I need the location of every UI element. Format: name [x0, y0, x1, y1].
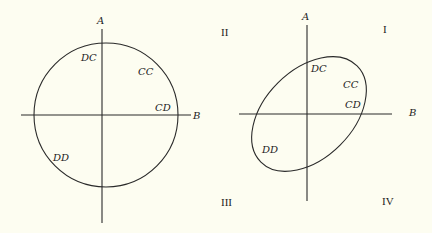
left-point-dd: DD — [52, 152, 69, 163]
right-axis-a-label: A — [301, 11, 309, 22]
right-point-cd: CD — [345, 99, 361, 110]
figure: A B DC CC CD DD A B DC CC CD DD I II III… — [0, 0, 432, 233]
left-diagram: A B DC CC CD DD — [21, 15, 200, 223]
left-point-cd: CD — [155, 102, 171, 113]
quadrant-iii-label: III — [221, 196, 232, 208]
quadrant-ii-label: II — [221, 26, 229, 38]
quadrant-iv-label: IV — [382, 195, 394, 207]
left-axis-a-label: A — [96, 15, 104, 26]
left-point-cc: CC — [138, 66, 154, 77]
left-point-dc: DC — [80, 52, 97, 63]
left-axis-b-label: B — [192, 110, 200, 121]
right-point-dd: DD — [261, 144, 278, 155]
payoff-diagrams: A B DC CC CD DD A B DC CC CD DD I II III… — [0, 0, 432, 233]
right-point-cc: CC — [343, 79, 359, 90]
right-diagram: A B DC CC CD DD I II III IV — [221, 11, 416, 208]
quadrant-i-label: I — [383, 23, 387, 35]
right-point-dc: DC — [310, 63, 327, 74]
right-axis-b-label: B — [408, 107, 416, 118]
